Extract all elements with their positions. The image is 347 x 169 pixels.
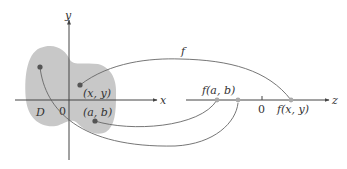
point-f-ab <box>215 98 220 103</box>
point-ab <box>92 118 97 123</box>
point-f-xy <box>289 98 294 103</box>
z-origin-label: 0 <box>258 103 265 116</box>
point-domain-other <box>37 64 42 69</box>
f-xy-label: f(x, y) <box>276 103 309 116</box>
point-xy-label: (x, y) <box>83 87 111 100</box>
point-xy <box>77 82 82 87</box>
z-axis-label: z <box>331 94 338 107</box>
point-f-other <box>236 98 241 103</box>
function-mapping-diagram: x y 0 D z 0 (x, y) (a, b) f(a, b) f(x, y… <box>0 0 347 169</box>
domain-label-d: D <box>35 106 45 119</box>
point-ab-label: (a, b) <box>83 106 112 119</box>
f-ab-label: f(a, b) <box>201 84 235 97</box>
x-axis-label: x <box>160 94 167 107</box>
y-axis-label: y <box>64 9 72 22</box>
function-label-f: f <box>180 45 187 58</box>
